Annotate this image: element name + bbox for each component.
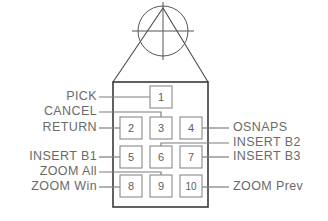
callout-labels-left: PICK CANCEL RETURN INSERT B1 ZOOM All ZO… [29, 89, 97, 193]
button-2[interactable]: 2 [120, 117, 142, 139]
leader-lines-left [99, 97, 161, 187]
callout-zoom-all-label: ZOOM All [40, 164, 97, 178]
puck-nose-outline [113, 8, 208, 82]
callout-cancel-label: CANCEL [44, 104, 97, 118]
button-7-label: 7 [188, 151, 194, 163]
callout-insert-b2-label: INSERT B2 [233, 135, 301, 149]
leader-cancel [99, 112, 161, 117]
button-8[interactable]: 8 [120, 175, 142, 197]
button-9-label: 9 [158, 180, 164, 192]
button-1[interactable]: 1 [150, 86, 172, 108]
callout-insert-b3-label: INSERT B3 [233, 149, 301, 163]
button-6-label: 6 [158, 151, 164, 163]
button-8-label: 8 [128, 180, 134, 192]
button-5-label: 5 [128, 151, 134, 163]
puck-diagram-root: 1 2 3 4 5 6 [0, 0, 328, 221]
callout-return-label: RETURN [43, 120, 97, 134]
button-5[interactable]: 5 [120, 146, 142, 168]
crosshair-lens [132, 2, 194, 60]
puck-button-grid: 1 2 3 4 5 6 [120, 86, 202, 197]
button-10[interactable]: 10 [180, 175, 202, 197]
callout-insert-b1-label: INSERT B1 [29, 149, 97, 163]
callout-labels-right: OSNAPS INSERT B2 INSERT B3 ZOOM Prev [233, 120, 304, 193]
button-4-label: 4 [188, 122, 194, 134]
button-4[interactable]: 4 [180, 117, 202, 139]
button-9[interactable]: 9 [150, 175, 172, 197]
digitizer-puck-diagram: 1 2 3 4 5 6 [0, 0, 328, 221]
button-1-label: 1 [158, 91, 164, 103]
callout-pick-label: PICK [66, 89, 97, 103]
button-7[interactable]: 7 [180, 146, 202, 168]
button-10-label: 10 [185, 181, 197, 192]
callout-zoom-prev-label: ZOOM Prev [233, 179, 304, 193]
button-3[interactable]: 3 [150, 117, 172, 139]
callout-zoom-win-label: ZOOM Win [31, 179, 97, 193]
button-3-label: 3 [158, 122, 164, 134]
button-2-label: 2 [128, 122, 134, 134]
callout-osnaps-label: OSNAPS [233, 120, 288, 134]
button-6[interactable]: 6 [150, 146, 172, 168]
